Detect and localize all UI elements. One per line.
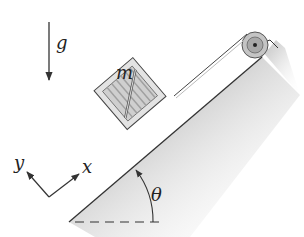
mass-label: m <box>116 64 133 82</box>
y-axis-label: y <box>14 154 24 172</box>
gravity-label: g <box>56 34 68 52</box>
x-axis-label: x <box>82 158 92 176</box>
pulley <box>242 32 268 58</box>
xy-axes-icon <box>27 172 79 197</box>
angle-label: θ <box>151 186 162 204</box>
incline-pulley-diagram: g m y x θ <box>0 0 304 237</box>
